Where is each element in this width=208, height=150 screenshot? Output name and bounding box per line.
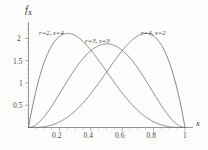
x-tick-label-0-4: 0.4 (84, 131, 93, 140)
y-tick-label-2: 2 (17, 34, 21, 43)
curve-annotation-r2-s4: r=2, s=4 (39, 29, 64, 36)
beta-density-figure: fX x 2 1.5 1 0.5 0.2 0.4 0.6 0.8 1 r=2, … (0, 0, 208, 150)
x-tick-label-1: 1 (183, 131, 187, 140)
curve-annotation-r3-s3: r=3, s=3 (85, 37, 110, 44)
y-tick-label-1: 1 (19, 79, 23, 88)
x-tick-label-0-6: 0.6 (115, 131, 124, 140)
y-tick-label-0-5: 0.5 (13, 101, 22, 110)
curve-annotation-r4-s2: r=4, s=2 (141, 29, 166, 36)
x-tick-label-0-2: 0.2 (52, 131, 61, 140)
x-tick-label-0-8: 0.8 (147, 131, 156, 140)
x-axis-label: x (196, 118, 200, 128)
y-axis-label: fX (25, 4, 32, 17)
y-axis-ticks (25, 38, 29, 105)
y-tick-label-1-5: 1.5 (13, 57, 22, 66)
y-axis-label-subscript: X (28, 9, 32, 17)
density-curve-r2-s4 (29, 33, 186, 127)
plot-canvas (0, 0, 208, 150)
density-curve-r3-s3 (29, 44, 186, 128)
density-curve-r4-s2 (29, 33, 186, 127)
